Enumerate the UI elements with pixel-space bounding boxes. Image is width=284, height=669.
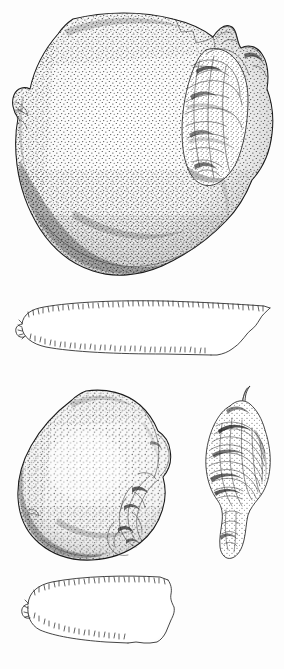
figure-lower-valve-exterior [14, 388, 196, 564]
figure-upper-valve-exterior [10, 10, 278, 282]
figure-upper-valve-cross-section [14, 292, 276, 372]
figure-hinge-detail [196, 392, 280, 562]
section-b-fill [28, 576, 174, 643]
figure-lower-valve-cross-section [16, 570, 188, 652]
illustration-plate [0, 0, 284, 669]
